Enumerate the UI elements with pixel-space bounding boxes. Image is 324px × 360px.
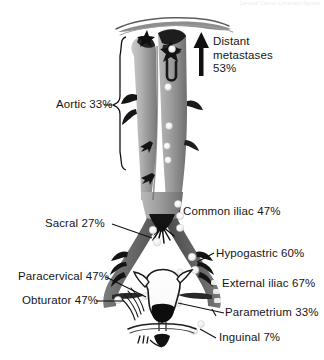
lymph-node: [169, 46, 176, 53]
inguinal-leader: [200, 329, 216, 338]
label-aortic: Aortic 33%: [56, 98, 113, 112]
lymphatic-spread-figure: Cervical Cancer Lymphatic Spread: [0, 0, 324, 360]
distant-metastases-line2: metastases: [213, 49, 273, 61]
lymph-node: [165, 157, 171, 163]
label-hypogastric: Hypogastric 60%: [216, 247, 304, 261]
label-sacral: Sacral 27%: [45, 217, 105, 231]
lymph-node: [174, 200, 181, 207]
lymph-node: [153, 238, 161, 246]
great-vessels: [121, 29, 203, 221]
lymph-node: [165, 84, 172, 91]
lymph-node: [166, 123, 173, 130]
label-inguinal: Inguinal 7%: [219, 331, 280, 345]
lymph-node: [176, 224, 183, 231]
label-distant-metastases: Distantmetastases53%: [213, 35, 291, 76]
distant-metastases-arrow: [194, 32, 210, 76]
distant-metastases-line3: 53%: [213, 62, 236, 74]
label-obturator: Obturator 47%: [22, 294, 98, 308]
label-parametrium: Parametrium 33%: [225, 306, 319, 320]
lymph-node: [149, 226, 157, 234]
label-common-iliac: Common iliac 47%: [183, 205, 280, 219]
label-external-iliac: External iliac 67%: [222, 277, 315, 291]
uterus-group: [128, 269, 196, 347]
lymph-node: [198, 321, 205, 328]
label-paracervical: Paracervical 47%: [18, 270, 109, 284]
lymph-node: [114, 296, 121, 303]
lymph-node: [188, 253, 196, 261]
distant-metastases-line1: Distant: [213, 35, 250, 47]
lymph-node: [164, 143, 170, 149]
